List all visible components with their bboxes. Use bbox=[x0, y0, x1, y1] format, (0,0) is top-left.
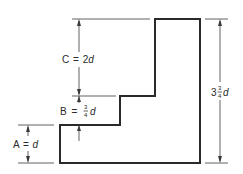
total-fraction-numerator: 3 bbox=[218, 85, 222, 91]
a-arrow-up-icon bbox=[26, 125, 30, 132]
total-label-whole: 3 bbox=[211, 87, 217, 98]
b-label-letter: B = bbox=[60, 106, 77, 117]
b-fraction-numerator: 3 bbox=[84, 104, 88, 110]
stepped-profile-outline bbox=[60, 19, 200, 163]
total-label-unit: d bbox=[223, 87, 229, 98]
a-arrow-down-icon bbox=[26, 156, 30, 163]
c-arrow-up-icon bbox=[77, 19, 81, 26]
dimension-diagram: C = 2d B = 3 4 d A = d 3 3 4 d bbox=[0, 0, 243, 174]
b-label-unit: d bbox=[90, 106, 96, 117]
total-fraction-denominator: 4 bbox=[218, 93, 222, 99]
b-fraction-denominator: 4 bbox=[84, 112, 88, 118]
c-arrow-down-icon bbox=[77, 89, 81, 96]
total-arrow-up-icon bbox=[218, 19, 222, 26]
c-label: C = 2d bbox=[62, 54, 94, 65]
a-label: A = d bbox=[13, 139, 39, 150]
b-arrow-down-icon bbox=[77, 96, 81, 102]
total-arrow-down-icon bbox=[218, 156, 222, 163]
